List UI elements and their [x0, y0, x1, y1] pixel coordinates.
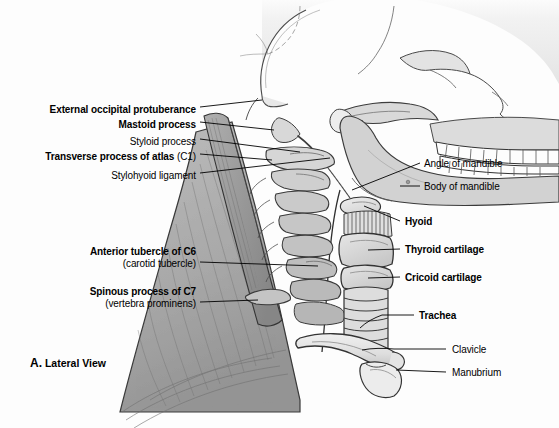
- label-styloid-process: Styloid process: [130, 136, 196, 147]
- label-text: Angle of mandible: [424, 158, 502, 169]
- label-subtext: (carotid tubercle): [123, 258, 196, 269]
- label-text: Mastoid process: [119, 119, 196, 130]
- label-text: Transverse process of atlas: [45, 151, 174, 162]
- label-subtext: (C1): [177, 151, 196, 162]
- label-text: Anterior tubercle of C6: [90, 246, 196, 257]
- external-occipital-protuberance: [246, 96, 288, 120]
- label-anterior-tubercle-of-c6: Anterior tubercle of C6: [90, 246, 196, 257]
- label-text: Hyoid: [405, 216, 432, 227]
- label-angle-of-mandible: Angle of mandible: [424, 158, 502, 169]
- label-text: Styloid process: [130, 136, 196, 147]
- label-text: Spinous process of C7: [90, 286, 196, 297]
- label-anterior-tubercle-of-c6-sub: (carotid tubercle): [123, 258, 196, 269]
- trapezius-muscle: [120, 122, 300, 428]
- label-transverse-process-of-atlas: Transverse process of atlas (C1): [45, 151, 196, 162]
- label-text: Stylohyoid ligament: [111, 170, 196, 181]
- label-text: Body of mandible: [424, 181, 500, 192]
- label-text: External occipital protuberance: [50, 104, 196, 115]
- leader-external-occipital-protuberance: [200, 100, 262, 107]
- thyroid-cartilage: [339, 233, 393, 268]
- label-manubrium: Manubrium: [452, 367, 501, 378]
- skull-cranium: [240, 0, 559, 96]
- mastoid-process: [271, 118, 300, 143]
- leader-manubrium: [396, 370, 446, 372]
- label-subtext: (vertebra prominens): [105, 298, 196, 309]
- label-text: Clavicle: [452, 344, 486, 355]
- label-stylohyoid-ligament: Stylohyoid ligament: [111, 170, 196, 181]
- label-body-of-mandible: Body of mandible: [424, 181, 500, 192]
- label-hyoid: Hyoid: [405, 216, 432, 227]
- anatomical-figure: External occipital protuberance Mastoid …: [0, 0, 559, 428]
- caption-letter: A.: [30, 356, 42, 370]
- label-external-occipital-protuberance: External occipital protuberance: [50, 104, 196, 115]
- caption-text: Lateral View: [45, 357, 106, 369]
- label-spinous-process-of-c7: Spinous process of C7: [90, 286, 196, 297]
- label-cricoid-cartilage: Cricoid cartilage: [405, 272, 482, 283]
- label-text: Thyroid cartilage: [405, 244, 484, 255]
- figure-caption: A. Lateral View: [30, 356, 106, 370]
- label-mastoid-process: Mastoid process: [119, 119, 196, 130]
- label-spinous-process-of-c7-sub: (vertebra prominens): [105, 298, 196, 309]
- label-text: Trachea: [419, 310, 456, 321]
- manubrium: [360, 362, 402, 398]
- label-text: Manubrium: [452, 367, 501, 378]
- label-trachea: Trachea: [419, 310, 456, 321]
- label-clavicle: Clavicle: [452, 344, 486, 355]
- label-thyroid-cartilage: Thyroid cartilage: [405, 244, 484, 255]
- anterior-tubercle-c6: [286, 257, 337, 279]
- label-text: Cricoid cartilage: [405, 272, 482, 283]
